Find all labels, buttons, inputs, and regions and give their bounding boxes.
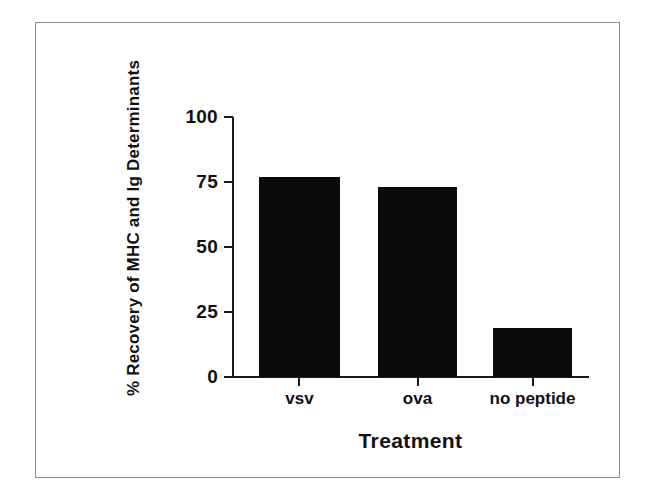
bar-vsv (259, 177, 340, 377)
y-tick-label-25: 25 (172, 302, 218, 321)
figure-root: 100 75 50 25 0 vsv ova no peptide Treatm… (0, 0, 645, 501)
y-axis-title: % Recovery of MHC and Ig Determinants (124, 60, 144, 396)
y-tick-0 (224, 376, 233, 378)
y-tick-75 (224, 181, 233, 183)
x-axis-title: Treatment (232, 429, 589, 453)
x-tick-label-no-peptide: no peptide (477, 390, 588, 409)
x-tick-ova (417, 377, 419, 386)
y-tick-label-0: 0 (172, 367, 218, 386)
figure-frame: 100 75 50 25 0 vsv ova no peptide Treatm… (35, 22, 620, 478)
x-tick-vsv (298, 377, 300, 386)
x-tick-label-vsv: vsv (259, 390, 340, 409)
y-tick-label-100: 100 (172, 107, 218, 126)
y-axis-title-wrap: % Recovery of MHC and Ig Determinants (120, 63, 148, 393)
x-tick-label-ova: ova (378, 390, 457, 409)
bar-no-peptide (493, 328, 572, 377)
x-tick-no-peptide (532, 377, 534, 386)
y-tick-25 (224, 311, 233, 313)
y-tick-100 (224, 116, 233, 118)
y-tick-50 (224, 246, 233, 248)
y-tick-label-50: 50 (172, 237, 218, 256)
y-tick-label-75: 75 (172, 172, 218, 191)
bar-ova (378, 187, 457, 377)
